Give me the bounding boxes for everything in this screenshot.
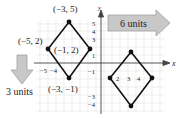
grid	[36, 20, 164, 112]
svg-text:1: 1	[92, 52, 95, 59]
y-tick-labels: 5 4 3 1 −1 −3 −4	[88, 20, 96, 108]
vertex-point	[129, 104, 134, 109]
svg-text:−4: −4	[50, 67, 58, 74]
svg-text:−5: −5	[40, 67, 47, 74]
vertex-point	[129, 50, 134, 55]
vertex-point	[46, 47, 51, 52]
x-axis-label: x	[171, 59, 176, 68]
vertex-point	[108, 76, 113, 81]
svg-text:4: 4	[92, 28, 96, 35]
down-arrow-icon	[11, 55, 33, 84]
svg-text:3: 3	[127, 75, 130, 82]
svg-text:5: 5	[92, 20, 95, 27]
vertex-label-left: (−5, 2)	[18, 36, 43, 46]
svg-text:4: 4	[137, 75, 141, 82]
vertex-label-bottom: (−3, −1)	[48, 84, 78, 94]
vertex-label-right: (−1, 2)	[54, 45, 79, 55]
vertex-point	[150, 76, 155, 81]
svg-text:−1: −1	[88, 68, 95, 75]
translation-diagram: x y 5 4 3 1 −1 −3 −4 −5 −4 2 3 4 (−3, 5)…	[0, 0, 180, 118]
x-axis-arrow-icon	[163, 61, 170, 66]
svg-text:2: 2	[116, 75, 119, 82]
svg-text:−3: −3	[88, 93, 95, 100]
vertex-label-top: (−3, 5)	[53, 4, 78, 14]
right-arrow-label: 6 units	[120, 18, 147, 29]
svg-text:−4: −4	[88, 101, 96, 108]
down-arrow: 3 units	[6, 55, 33, 97]
down-arrow-label: 3 units	[6, 86, 33, 97]
vertex-point	[67, 76, 72, 81]
vertex-point	[88, 47, 93, 52]
vertex-point	[67, 20, 72, 25]
svg-text:3: 3	[92, 36, 95, 43]
right-arrow: 6 units	[108, 10, 170, 36]
